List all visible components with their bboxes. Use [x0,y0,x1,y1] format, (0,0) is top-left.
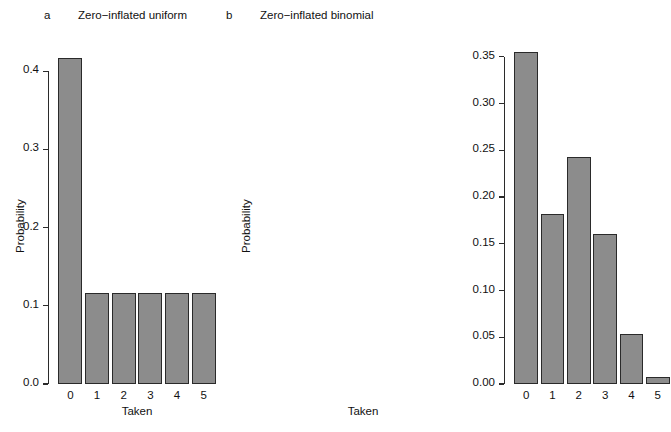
panel-a-y-tick-label: 0.1 [0,298,39,310]
panel-b-x-tick-label: 3 [592,389,618,401]
panel-a-x-tick-label: 3 [137,389,164,401]
panel-b-y-tick-label: 0.10 [455,283,495,295]
bar [646,377,670,384]
panel-b-y-tick-label: 0.35 [455,49,495,61]
panel-b-y-axis-title: Probability [240,199,252,253]
bar [593,234,617,385]
panel-a-y-tick-label: 0.0 [0,376,39,388]
panel-a-x-axis-title: Taken [57,405,217,417]
bar [85,293,109,384]
panel-b-y-tick-label: 0.25 [455,142,495,154]
panel-a-y-tick [43,149,48,150]
panel-b-y-tick [499,290,504,291]
panel-b-y-tick-label: 0.15 [455,236,495,248]
bar [165,293,189,384]
bar [112,293,136,384]
panel-b-y-tick [499,150,504,151]
panel-b-x-tick-label: 1 [539,389,565,401]
bar [567,157,591,384]
panel-b: b Zero−inflated binomial Probability 0.0… [229,0,459,432]
panel-a: a Zero−inflated uniform Probability 0.00… [0,0,229,432]
panel-a-x-tick-label: 1 [84,389,111,401]
panel-a-x-tick-label: 4 [164,389,191,401]
panel-b-y-tick-label: 0.05 [455,329,495,341]
panel-a-y-tick [43,383,48,384]
panel-b-title: Zero−inflated binomial [260,9,373,21]
panel-a-letter: a [44,9,50,21]
bar [58,58,82,384]
panel-b-x-tick-label: 2 [566,389,592,401]
bar [514,52,538,384]
panel-b-x-tick-label: 4 [618,389,644,401]
panel-a-y-tick-label: 0.2 [0,220,39,232]
bar [138,293,162,384]
panel-b-y-axis-line [504,57,505,384]
panel-b-plot-area: 0.000.050.100.150.200.250.300.35012345 [513,40,671,384]
panel-b-y-tick [499,337,504,338]
panel-a-title: Zero−inflated uniform [78,9,187,21]
panel-b-y-tick [499,103,504,104]
panel-a-y-tick [43,71,48,72]
panel-b-x-tick-label: 5 [645,389,671,401]
panel-b-y-tick-label: 0.30 [455,96,495,108]
panel-a-y-tick-label: 0.4 [0,63,39,75]
panel-a-x-tick-label: 0 [57,389,84,401]
panel-b-y-tick [499,243,504,244]
panel-b-y-tick-label: 0.20 [455,189,495,201]
bar [620,334,644,384]
panel-b-y-tick [499,56,504,57]
panel-b-letter: b [226,9,232,21]
panel-b-x-axis-title: Taken [284,405,442,417]
bar [192,293,216,384]
panel-a-x-tick-label: 2 [110,389,137,401]
panel-b-x-tick-label: 0 [513,389,539,401]
panel-a-y-axis-line [48,71,49,384]
panel-a-y-tick [43,305,48,306]
panel-a-y-tick [43,227,48,228]
panel-b-y-tick [499,196,504,197]
bar [541,214,565,384]
panel-b-y-tick-label: 0.00 [455,376,495,388]
panel-a-plot-area: 0.00.10.20.30.4012345 [57,40,217,384]
panel-a-y-tick-label: 0.3 [0,141,39,153]
panel-b-y-tick [499,383,504,384]
panel-a-x-tick-label: 5 [190,389,217,401]
